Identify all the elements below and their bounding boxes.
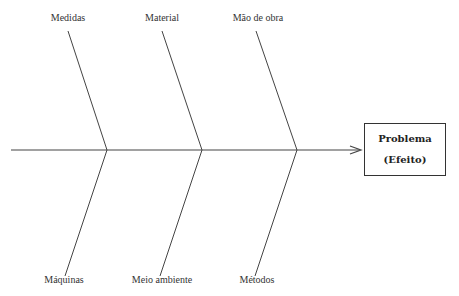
bone-meio-ambiente xyxy=(160,150,202,276)
effect-title: Problema xyxy=(365,133,445,144)
cause-label-metodos: Métodos xyxy=(240,274,275,285)
effect-subtitle: (Efeito) xyxy=(365,154,445,165)
cause-label-mao-de-obra: Mão de obra xyxy=(233,12,284,23)
cause-label-material: Material xyxy=(145,12,179,23)
bone-mao-de-obra xyxy=(256,31,297,150)
cause-label-meio-ambiente: Meio ambiente xyxy=(132,274,192,285)
effect-box: Problema (Efeito) xyxy=(364,123,446,176)
bone-medidas xyxy=(68,31,107,150)
cause-label-maquinas: Máquinas xyxy=(44,274,83,285)
bone-material xyxy=(162,31,202,150)
bone-maquinas xyxy=(65,150,107,276)
bone-metodos xyxy=(255,150,297,276)
cause-label-medidas: Medidas xyxy=(51,12,85,23)
